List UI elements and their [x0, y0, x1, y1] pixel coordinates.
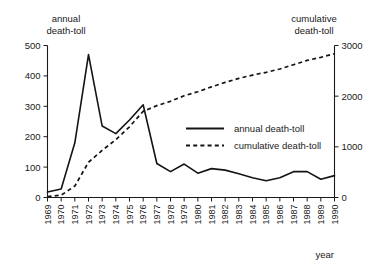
- chart-legend: annual death-toll cumulative death-toll: [186, 123, 321, 151]
- left-tick-label: 500: [25, 40, 41, 51]
- left-axis-title-line1: annual: [52, 13, 81, 24]
- x-tick-label: 1986: [275, 205, 285, 225]
- x-tick-label: 1973: [97, 205, 107, 225]
- x-axis-ticks: 1969197019711972197319741975197619771978…: [43, 198, 340, 225]
- x-tick-label: 1981: [207, 205, 217, 225]
- x-axis-title: year: [316, 249, 334, 260]
- legend-label-annual: annual death-toll: [234, 123, 304, 134]
- x-tick-label: 1985: [261, 205, 271, 225]
- left-axis-title-line2: death-toll: [46, 25, 85, 36]
- x-tick-label: 1982: [220, 205, 230, 225]
- x-tick-label: 1969: [43, 205, 53, 225]
- legend-label-cumulative: cumulative death-toll: [234, 140, 321, 151]
- x-tick-label: 1974: [111, 205, 121, 225]
- left-tick-label: 100: [25, 162, 41, 173]
- right-tick-label: 1000: [342, 141, 363, 152]
- right-axis-title-line1: cumulative: [291, 13, 336, 24]
- x-tick-label: 1990: [330, 205, 340, 225]
- left-tick-label: 300: [25, 101, 41, 112]
- x-tick-label: 1972: [84, 205, 94, 225]
- x-tick-label: 1976: [138, 205, 148, 225]
- right-axis-ticks: 0100020003000: [335, 40, 363, 203]
- x-tick-label: 1983: [234, 205, 244, 225]
- right-tick-label: 2000: [342, 91, 363, 102]
- x-tick-label: 1978: [166, 205, 176, 225]
- left-axis-ticks: 0100200300400500: [25, 40, 48, 203]
- x-tick-label: 1977: [152, 205, 162, 225]
- x-tick-label: 1971: [70, 205, 80, 225]
- x-tick-label: 1989: [316, 205, 326, 225]
- chart-container: annual death-toll cumulative death-toll …: [0, 0, 379, 269]
- left-tick-label: 400: [25, 70, 41, 81]
- x-tick-label: 1979: [179, 205, 189, 225]
- left-tick-label: 200: [25, 131, 41, 142]
- x-tick-label: 1987: [289, 205, 299, 225]
- x-tick-label: 1988: [302, 205, 312, 225]
- right-axis-title-line2: death-toll: [294, 25, 333, 36]
- right-tick-label: 3000: [342, 40, 363, 51]
- right-tick-label: 0: [342, 192, 347, 203]
- x-tick-label: 1970: [56, 205, 66, 225]
- x-tick-label: 1980: [193, 205, 203, 225]
- x-tick-label: 1975: [125, 205, 135, 225]
- line-chart: annual death-toll cumulative death-toll …: [0, 0, 379, 269]
- left-tick-label: 0: [35, 192, 40, 203]
- x-tick-label: 1984: [248, 205, 258, 225]
